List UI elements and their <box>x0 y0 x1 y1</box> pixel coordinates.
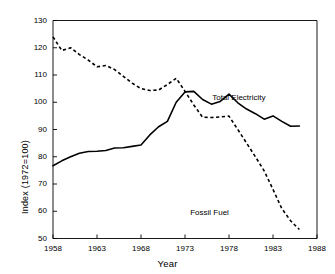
y-tick-label: 110 <box>23 70 47 79</box>
y-tick-label: 80 <box>23 152 47 161</box>
chart-figure: Index (1972=100) Year 195819631968197319… <box>0 0 335 274</box>
y-tick-label: 100 <box>23 97 47 106</box>
x-tick-label: 1978 <box>209 244 249 253</box>
series-line-total-electricity <box>53 91 299 165</box>
y-axis-ticks <box>53 21 57 239</box>
x-axis-label: Year <box>0 258 335 269</box>
y-tick-label: 70 <box>23 179 47 188</box>
y-tick-label: 90 <box>23 125 47 134</box>
x-tick-label: 1973 <box>165 244 205 253</box>
x-tick-label: 1983 <box>253 244 293 253</box>
x-tick-label: 1968 <box>121 244 161 253</box>
series-line-fossil-fuel <box>53 37 299 230</box>
chart-plot-area <box>0 0 335 274</box>
y-tick-label: 50 <box>23 234 47 243</box>
axis-frame <box>53 21 317 239</box>
series-annotation: Total Electricity <box>212 93 265 102</box>
y-axis-label: Index (1972=100) <box>20 122 30 232</box>
x-tick-label: 1963 <box>77 244 117 253</box>
series-annotation: Fossil Fuel <box>190 208 229 217</box>
x-axis-ticks <box>53 235 317 239</box>
y-axis-label-container: Index (1972=100) <box>6 60 20 190</box>
y-tick-label: 120 <box>23 43 47 52</box>
x-tick-label: 1958 <box>33 244 73 253</box>
x-tick-label: 1988 <box>297 244 335 253</box>
y-tick-label: 130 <box>23 16 47 25</box>
y-tick-label: 60 <box>23 206 47 215</box>
